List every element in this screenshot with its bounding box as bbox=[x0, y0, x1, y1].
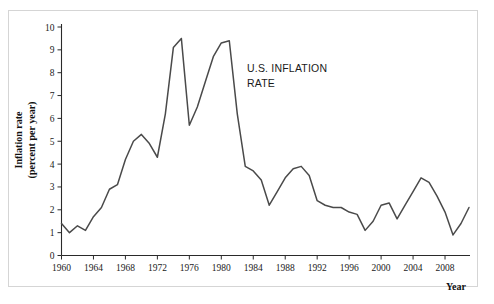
y-tick-label: 9 bbox=[50, 45, 55, 55]
y-tick-label: 7 bbox=[50, 91, 55, 101]
y-axis-title: Inflation rate (percent per year) bbox=[13, 102, 38, 179]
x-tick-label: 1968 bbox=[116, 263, 135, 273]
inflation-line-chart: 012345678910 196019641968197219761980198… bbox=[0, 0, 494, 304]
x-tick-label: 2004 bbox=[404, 263, 423, 273]
x-tick-label: 1992 bbox=[308, 263, 327, 273]
x-tick-label: 1996 bbox=[340, 263, 359, 273]
annotation-line-1: U.S. INFLATION bbox=[247, 62, 327, 74]
y-tick-label: 5 bbox=[50, 137, 55, 147]
x-axis-ticks: 1960196419681972197619801984198819921996… bbox=[52, 256, 455, 273]
y-tick-label: 2 bbox=[50, 205, 55, 215]
y-tick-label: 6 bbox=[50, 114, 55, 124]
x-tick-label: 1972 bbox=[148, 263, 167, 273]
y-tick-label: 0 bbox=[50, 251, 55, 261]
series-annotation: U.S. INFLATION RATE bbox=[247, 62, 327, 89]
y-tick-label: 8 bbox=[50, 68, 55, 78]
x-tick-label: 1964 bbox=[84, 263, 103, 273]
y-axis-ticks: 012345678910 bbox=[45, 23, 62, 262]
x-tick-label: 1980 bbox=[212, 263, 231, 273]
annotation-line-2: RATE bbox=[247, 77, 275, 89]
y-axis-title-line-2: (percent per year) bbox=[26, 102, 38, 179]
x-tick-label: 1984 bbox=[244, 263, 263, 273]
y-axis-title-line-1: Inflation rate bbox=[13, 111, 24, 169]
inflation-rate-figure: 012345678910 196019641968197219761980198… bbox=[0, 0, 494, 304]
y-tick-label: 4 bbox=[50, 160, 55, 170]
x-tick-label: 1960 bbox=[52, 263, 71, 273]
x-tick-label: 1988 bbox=[276, 263, 295, 273]
y-tick-label: 3 bbox=[50, 182, 55, 192]
y-tick-label: 10 bbox=[45, 23, 55, 33]
x-tick-label: 2008 bbox=[436, 263, 455, 273]
x-tick-label: 2000 bbox=[372, 263, 391, 273]
y-tick-label: 1 bbox=[50, 228, 55, 238]
x-tick-label: 1976 bbox=[180, 263, 199, 273]
x-axis-title: Year bbox=[446, 281, 467, 292]
